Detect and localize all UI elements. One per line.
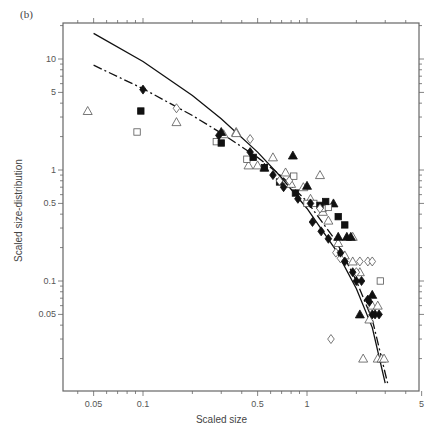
open-triangle-marker: [83, 107, 92, 115]
y-tick-label: 5: [51, 87, 56, 97]
open-square-marker: [377, 278, 383, 284]
filled-triangle-marker: [334, 232, 343, 240]
plot-frame: [63, 23, 419, 391]
open-triangle-marker: [315, 171, 324, 179]
x-axis-label: Scaled size: [0, 414, 443, 425]
filled-diamond-marker: [140, 85, 147, 94]
y-tick-label: 1: [51, 165, 56, 175]
x-tick-label: 5: [419, 399, 424, 409]
x-tick-label: 0.05: [85, 399, 103, 409]
filled-diamond-marker: [318, 227, 325, 236]
filled-square-marker: [138, 108, 144, 114]
filled-square-marker: [342, 222, 348, 228]
y-tick-label: 10: [46, 54, 56, 64]
y-tick-label: 0.1: [43, 276, 56, 286]
y-tick-label: 0.5: [43, 198, 56, 208]
filled-diamond-marker: [358, 277, 365, 286]
open-triangle-marker: [172, 118, 181, 126]
scatter-plot: 0.050.10.5150.050.10.51510: [0, 0, 443, 445]
filled-square-marker: [322, 198, 328, 204]
filled-square-marker: [218, 140, 224, 146]
open-triangle-marker: [359, 354, 368, 362]
filled-triangle-marker: [355, 310, 364, 318]
open-triangle-marker: [281, 168, 290, 176]
open-square-marker: [291, 173, 297, 179]
open-triangle-marker: [268, 153, 277, 161]
filled-diamond-marker: [376, 310, 383, 319]
open-square-marker: [325, 204, 331, 210]
open-diamond-marker: [369, 257, 376, 266]
x-tick-label: 0.1: [137, 399, 150, 409]
filled-square-marker: [261, 164, 267, 170]
open-triangle-marker: [253, 161, 262, 169]
open-square-marker: [134, 129, 140, 135]
open-diamond-marker: [328, 335, 335, 344]
y-tick-label: 0.05: [38, 309, 56, 319]
open-triangle-marker: [348, 257, 357, 265]
x-tick-label: 1: [304, 399, 309, 409]
open-diamond-marker: [357, 257, 364, 266]
y-axis-label: Scaled size-distribution: [13, 151, 24, 271]
open-square-marker: [244, 156, 250, 162]
x-tick-label: 0.5: [251, 399, 264, 409]
solid-fit-curve: [94, 33, 386, 383]
open-triangle-marker: [324, 216, 333, 224]
open-diamond-marker: [247, 135, 254, 144]
filled-triangle-marker: [288, 151, 297, 159]
filled-square-marker: [335, 213, 341, 219]
